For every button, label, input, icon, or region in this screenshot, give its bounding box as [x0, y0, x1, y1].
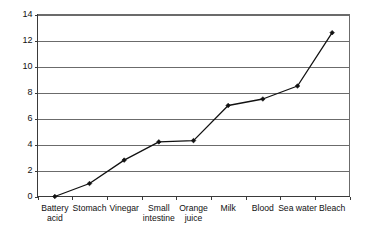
y-axis-tick-label: 6	[27, 113, 32, 123]
x-axis-category-label: Blood	[252, 203, 274, 213]
y-axis-tick-label: 0	[27, 191, 32, 201]
y-axis-tick-label: 12	[22, 35, 32, 45]
y-axis-tick-label: 8	[27, 87, 32, 97]
ph-scale-line-chart: 02468101214 BatteryacidStomachVinegarSma…	[0, 0, 366, 240]
y-axis-tick-label: 2	[27, 165, 32, 175]
x-axis-category-label: Vinegar	[109, 203, 139, 213]
x-axis-category-label: Stomach	[73, 203, 107, 213]
y-axis-tick-label: 14	[22, 9, 32, 19]
x-axis-category-label: Bleach	[319, 203, 345, 213]
x-axis-category-label: Sea water	[278, 203, 317, 213]
x-axis-category-label: Milk	[221, 203, 237, 213]
y-axis-tick-label: 4	[27, 139, 32, 149]
chart-canvas: 02468101214 BatteryacidStomachVinegarSma…	[0, 0, 366, 240]
y-axis-tick-label: 10	[22, 61, 32, 71]
